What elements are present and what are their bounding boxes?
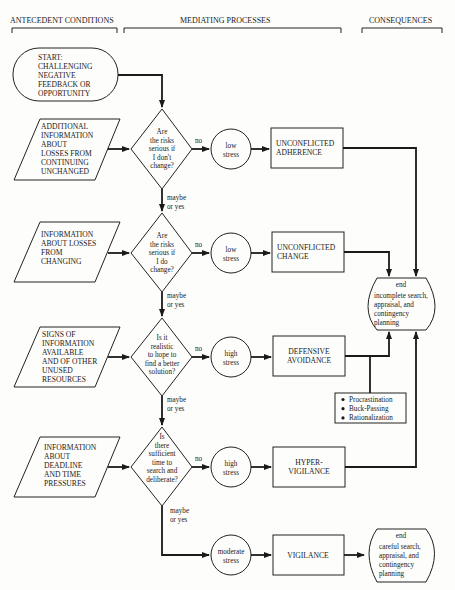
stress-text-line: stress — [223, 557, 239, 565]
question-text-line: to hope to — [148, 351, 177, 359]
stress-text-line: high — [225, 460, 238, 468]
stress-text-line: stress — [223, 151, 239, 159]
question-text-line: solution? — [149, 368, 175, 376]
stress-text-line: high — [225, 350, 238, 358]
question-text-line: Are — [157, 232, 168, 240]
input-text-line: ABOUT LOSSES — [41, 239, 96, 248]
end-text-line: end — [396, 532, 407, 540]
header-mediating: MEDIATING PROCESSES — [180, 16, 270, 25]
input-text-line: CHANGING — [41, 257, 82, 266]
bracket-mediating — [124, 28, 341, 33]
pattern-text-line: DEFENSIVE — [288, 347, 330, 356]
question-text-line: serious if — [149, 145, 176, 153]
header-consequences: CONSEQUENCES — [369, 16, 432, 25]
label-maybe-1: maybe — [167, 194, 186, 202]
question-text-line: deliberate? — [146, 476, 178, 484]
tactic-item: Buck-Passing — [349, 405, 389, 413]
input-losses-changing: INFORMATIONABOUT LOSSESFROMCHANGING — [14, 222, 120, 282]
pattern-text-line: HYPER- — [295, 458, 323, 467]
input-text-line: FROM — [41, 248, 63, 257]
avoidance-tactics-box: ProcrastinationBuck-PassingRationalizati… — [335, 393, 406, 423]
start-text-line: FEEDBACK OR — [38, 80, 91, 89]
question-text-line: I don't — [153, 154, 171, 162]
bullet-icon — [341, 398, 344, 401]
pattern-defensive-avoidance: DEFENSIVEAVOIDANCE — [273, 336, 345, 376]
pattern-text-line: ADHERENCE — [276, 148, 322, 157]
input-text-line: UNUSED — [42, 366, 73, 375]
stress-text-line: stress — [223, 255, 239, 263]
input-text-line: AND OF OTHER — [42, 357, 98, 366]
question-text-line: realistic — [151, 343, 174, 351]
label-oryes-4: or yes — [170, 516, 188, 524]
header-antecedent: ANTECEDENT CONDITIONS — [10, 16, 114, 25]
stress-text-line: low — [226, 246, 238, 254]
label-oryes-2: or yes — [167, 301, 185, 309]
stress-low-1: lowstress — [211, 129, 251, 169]
question-text-line: the risks — [150, 241, 174, 249]
end-text-line: end — [396, 281, 407, 289]
input-text-line: ABOUT — [44, 452, 71, 461]
bracket-antecedent — [12, 28, 117, 33]
pattern-text-line: UNCONFLICTED — [276, 139, 335, 148]
input-deadline-pressure: INFORMATIONABOUTDEADLINEAND TIMEPRESSURE… — [14, 437, 120, 497]
pattern-unconflicted-change: UNCONFLICTEDCHANGE — [272, 232, 344, 272]
stress-text-line: low — [226, 142, 238, 150]
input-text-line: INFORMATION — [42, 339, 95, 348]
end-text-line: planning — [374, 319, 400, 327]
end-text-line: careful search, — [379, 543, 421, 551]
label-maybe-2: maybe — [167, 292, 186, 300]
question-text-line: Is — [159, 433, 164, 441]
question-text-line: I do — [156, 258, 168, 266]
input-additional-info: ADDITIONALINFORMATIONABOUTLOSSES FROMCON… — [14, 119, 120, 180]
question-text-line: change? — [150, 266, 174, 274]
input-text-line: UNCHANGED — [41, 167, 90, 176]
label-maybe-3: maybe — [167, 396, 186, 404]
decision-risks-if-unchanged: Arethe risksserious ifI don'tchange? — [131, 109, 192, 189]
input-text-line: INFORMATION — [41, 131, 94, 140]
input-text-line: RESOURCES — [42, 375, 86, 384]
stress-text-line: stress — [223, 469, 239, 477]
tactic-item: Procrastination — [349, 396, 393, 404]
input-text-line: AVAILABLE — [42, 348, 84, 357]
question-text-line: sufficient — [148, 450, 175, 458]
bullet-icon — [341, 416, 344, 419]
question-text-line: time to — [152, 459, 173, 467]
input-text-line: DEADLINE — [44, 461, 83, 470]
input-text-line: CONTINUING — [41, 158, 89, 167]
input-text-line: INFORMATION — [41, 230, 94, 239]
decision-realistic-hope: Is itrealisticto hope tofind a bettersol… — [131, 318, 192, 396]
stress-high-2: highstress — [211, 447, 251, 487]
pattern-text-line: AVOIDANCE — [287, 356, 332, 365]
question-text-line: Is it — [157, 334, 168, 342]
pattern-hypervigilance: HYPER-VIGILANCE — [273, 447, 345, 487]
input-text-line: LOSSES FROM — [41, 149, 92, 158]
bullet-icon — [341, 407, 344, 410]
arrow-adherence-to-end — [343, 148, 416, 276]
start-text-line: CHALLENGING — [38, 62, 93, 71]
pattern-text-line: VIGILANCE — [287, 551, 329, 560]
label-oryes-3: or yes — [167, 405, 185, 413]
end-careful-planning: endcareful search,appraisal, andcontinge… — [369, 529, 435, 582]
stress-low-2: lowstress — [211, 233, 251, 273]
end-incomplete-planning: endincomplete search,appraisal, andconti… — [368, 278, 435, 330]
pattern-text-line: CHANGE — [277, 252, 309, 261]
pattern-vigilance: VIGILANCE — [273, 535, 344, 575]
pattern-text-line: VIGILANCE — [288, 467, 330, 476]
arrow-start-to-q1 — [118, 75, 162, 107]
pattern-unconflicted-adherence: UNCONFLICTEDADHERENCE — [271, 128, 343, 168]
start-text-line: OPPORTUNITY — [38, 89, 91, 98]
decision-risks-if-change: Arethe risksserious ifI dochange? — [131, 213, 192, 292]
input-text-line: INFORMATION — [44, 443, 97, 452]
end-text-line: incomplete search, — [374, 292, 428, 300]
question-text-line: the risks — [150, 137, 174, 145]
end-text-line: planning — [379, 570, 405, 578]
start-text-line: START: — [38, 53, 63, 62]
input-text-line: ADDITIONAL — [41, 122, 89, 131]
pattern-text-line: UNCONFLICTED — [277, 243, 336, 252]
label-oryes-1: or yes — [167, 203, 185, 211]
input-text-line: AND TIME — [44, 470, 81, 479]
tactic-item: Rationalization — [349, 414, 393, 422]
column-headers: ANTECEDENT CONDITIONS MEDIATING PROCESSE… — [10, 16, 442, 33]
question-text-line: Are — [157, 128, 168, 136]
stress-text-line: moderate — [218, 548, 245, 556]
